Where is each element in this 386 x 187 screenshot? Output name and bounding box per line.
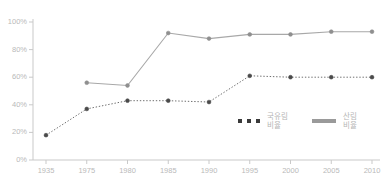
legend-item-national-forest-ratio: 국유림 비율 [238, 112, 288, 130]
legend-label-forest-ratio: 산림 비율 [343, 112, 357, 130]
x-axis-tick-label: 2005 [313, 166, 349, 175]
data-point-marker [289, 33, 293, 37]
data-point-marker [85, 107, 89, 111]
legend-label-national-forest-ratio: 국유림 비율 [267, 112, 288, 130]
x-axis-tick-label: 1975 [69, 166, 105, 175]
data-point-marker [166, 31, 170, 35]
y-axis-tick-label: 80% [12, 45, 27, 54]
y-axis-tick-label: 60% [12, 72, 27, 81]
x-axis-tick-label: 1935 [28, 166, 64, 175]
y-axis-tick-label: 40% [12, 100, 27, 109]
legend-label-line1: 국유림 [267, 112, 288, 121]
line-chart-plot [0, 0, 386, 187]
dotted-series-swatch-icon [238, 116, 260, 126]
data-point-marker [370, 75, 374, 79]
chart-legend: 국유림 비율 산림 비율 [236, 106, 384, 146]
data-point-marker [329, 30, 333, 34]
y-axis-tick-label: 100% [8, 17, 27, 26]
data-point-marker [370, 30, 374, 34]
data-point-marker [126, 99, 130, 103]
legend-item-forest-ratio: 산림 비율 [312, 112, 357, 130]
x-axis-tick-label: 1980 [110, 166, 146, 175]
solid-series-swatch-icon [312, 116, 336, 126]
x-axis-tick-label: 1990 [191, 166, 227, 175]
data-point-marker [126, 84, 130, 88]
data-point-marker [207, 100, 211, 104]
legend-label-line1: 산림 [343, 112, 357, 121]
legend-label-line2: 비율 [343, 121, 357, 130]
data-point-marker [207, 37, 211, 41]
x-axis-tick-label: 2000 [273, 166, 309, 175]
y-axis-tick-label: 20% [12, 127, 27, 136]
data-point-marker [329, 75, 333, 79]
legend-label-line2: 비율 [267, 121, 288, 130]
data-point-marker [248, 74, 252, 78]
y-axis-tick-label: 0% [16, 155, 27, 164]
data-point-marker [85, 81, 89, 85]
x-axis-tick-label: 1995 [232, 166, 268, 175]
data-point-marker [166, 99, 170, 103]
data-point-marker [44, 133, 48, 137]
data-point-marker [248, 33, 252, 37]
x-axis-tick-label: 2010 [354, 166, 386, 175]
x-axis-tick-label: 1985 [150, 166, 186, 175]
chart-container: 국유림 비율 산림 비율 0%20%40%60%80%100%193519751… [0, 0, 386, 187]
data-point-marker [289, 75, 293, 79]
